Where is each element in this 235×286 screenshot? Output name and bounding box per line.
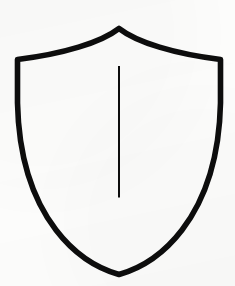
- shield-illustration: Shield outline with vertical center line: [0, 0, 235, 286]
- image-canvas: Shield outline with vertical center line: [0, 0, 235, 286]
